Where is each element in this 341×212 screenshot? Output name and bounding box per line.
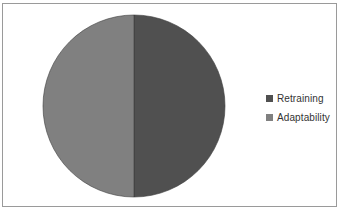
pie-slice-adaptability [43,15,134,197]
legend-label-adaptability: Adaptability [277,112,330,123]
legend-swatch-adaptability [266,114,273,121]
legend-label-retraining: Retraining [277,93,324,104]
pie-slices [43,15,225,197]
legend-swatch-retraining [266,95,273,102]
chart-legend: Retraining Adaptability [266,89,330,127]
legend-item-adaptability: Adaptability [266,108,330,127]
legend-item-retraining: Retraining [266,89,330,108]
pie-slice-retraining [134,15,225,197]
